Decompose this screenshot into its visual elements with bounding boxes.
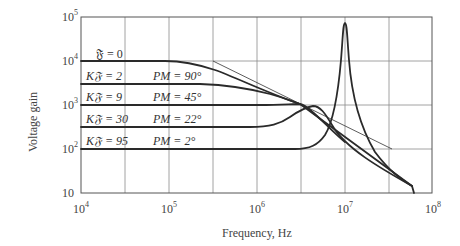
label-f0: 𝔉 = 0 xyxy=(96,47,123,61)
label-kf95: K𝔉 = 95 xyxy=(85,134,128,148)
svg-text:102: 102 xyxy=(62,140,78,156)
y-axis-title: Voltage gain xyxy=(26,92,40,152)
svg-text:106: 106 xyxy=(249,200,265,216)
label-pm45: PM = 45° xyxy=(152,90,201,104)
curve-kf95 xyxy=(81,23,414,193)
curve-kf30 xyxy=(81,106,412,186)
svg-text:107: 107 xyxy=(337,200,353,216)
curves xyxy=(81,23,414,193)
svg-text:104: 104 xyxy=(73,200,89,216)
svg-text:105: 105 xyxy=(62,8,78,24)
svg-text:104: 104 xyxy=(62,52,78,68)
label-kf9: K𝔉 = 9 xyxy=(85,90,122,104)
label-kf2: K𝔉 = 2 xyxy=(85,69,122,83)
x-axis-ticks: 104 105 106 107 108 xyxy=(73,200,441,216)
y-axis-ticks: 105 104 103 102 10 xyxy=(62,8,78,200)
label-pm22: PM = 22° xyxy=(152,112,201,126)
label-pm2: PM = 2° xyxy=(152,134,195,148)
svg-text:108: 108 xyxy=(425,200,441,216)
x-axis-title: Frequency, Hz xyxy=(222,226,292,240)
label-kf30: K𝔉 = 30 xyxy=(85,112,128,126)
svg-text:105: 105 xyxy=(161,200,177,216)
svg-text:103: 103 xyxy=(62,96,78,112)
svg-text:10: 10 xyxy=(62,186,74,200)
bode-magnitude-chart: 105 104 103 102 10 104 105 106 107 108 F… xyxy=(0,0,460,246)
label-pm90: PM = 90° xyxy=(152,69,201,83)
